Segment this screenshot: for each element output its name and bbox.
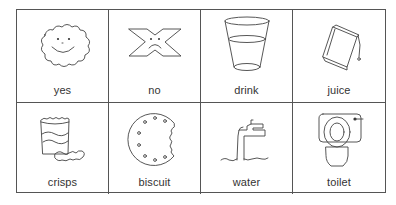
card-label: drink xyxy=(201,84,292,96)
card-label: yes xyxy=(17,84,108,96)
tap-icon xyxy=(207,108,287,170)
card-drink[interactable]: drink xyxy=(201,10,293,103)
card-label: toilet xyxy=(293,176,385,188)
card-water[interactable]: water xyxy=(201,103,293,194)
card-label: crisps xyxy=(17,176,108,188)
card-toilet[interactable]: toilet xyxy=(293,103,385,194)
card-label: no xyxy=(109,84,200,96)
communication-board: yes no drink xyxy=(16,9,386,193)
card-label: water xyxy=(201,176,292,188)
card-label: juice xyxy=(293,84,385,96)
crisps-packet-icon xyxy=(23,108,103,170)
card-crisps[interactable]: crisps xyxy=(17,103,109,194)
glass-icon xyxy=(207,15,287,77)
juice-carton-icon xyxy=(299,15,379,77)
card-yes[interactable]: yes xyxy=(17,10,109,103)
sad-cross-icon xyxy=(115,15,195,77)
toilet-icon xyxy=(299,108,379,170)
card-label: biscuit xyxy=(109,176,200,188)
card-no[interactable]: no xyxy=(109,10,201,103)
card-juice[interactable]: juice xyxy=(293,10,385,103)
bitten-biscuit-icon xyxy=(115,108,195,170)
smiling-cloud-icon xyxy=(23,15,103,77)
card-biscuit[interactable]: biscuit xyxy=(109,103,201,194)
